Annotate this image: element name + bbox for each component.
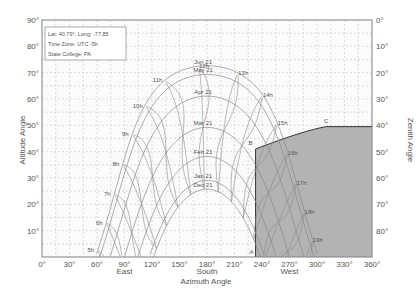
date-label: Jan 21	[194, 173, 213, 179]
date-label: Feb 21	[194, 149, 213, 155]
y2-tick-label: 50°	[376, 148, 388, 157]
x-tick-label: 60°	[91, 260, 103, 269]
y-tick-label: 70°	[27, 69, 39, 78]
direction-label: South	[197, 267, 218, 276]
y-tick-label: 30°	[27, 174, 39, 183]
y2-axis-title: Zenith Angle	[406, 118, 415, 163]
hour-label: 14h	[263, 92, 273, 98]
info-time-zone: Time Zone: UTC -5h	[48, 41, 98, 47]
info-lat-long: Lat: 40.79°, Long: -77.85	[48, 31, 109, 37]
hour-label: 18h	[305, 209, 315, 215]
direction-label: West	[280, 267, 299, 276]
x-axis-title: Azimuth Angle	[180, 277, 232, 286]
x-tick-label: 150°	[171, 260, 188, 269]
date-label: Mar 21	[194, 120, 213, 126]
date-label: Dec 21	[193, 182, 213, 188]
hour-label: 7h	[104, 191, 111, 197]
hour-label: 15h	[277, 120, 287, 126]
y2-tick-label: 80°	[376, 227, 388, 236]
hour-label: 11h	[153, 77, 163, 83]
y-tick-label: 80°	[27, 42, 39, 51]
hour-label: 5h	[88, 247, 95, 253]
y2-tick-label: 30°	[376, 95, 388, 104]
y2-tick-label: 60°	[376, 174, 388, 183]
y-axis-title: Altitude Angle	[18, 115, 27, 164]
y2-tick-label: 0°	[376, 16, 384, 25]
x-tick-label: 30°	[63, 260, 75, 269]
hour-label: 9h	[122, 131, 129, 137]
hour-label: 16h	[288, 150, 298, 156]
x-tick-label: 0°	[38, 260, 46, 269]
y2-axis-ticks: 0°10°20°30°40°50°60°70°80°	[376, 16, 388, 236]
info-location: State College, PA	[48, 51, 91, 57]
y-tick-label: 90°	[27, 16, 39, 25]
y-tick-label: 10°	[27, 227, 39, 236]
x-tick-label: 210°	[226, 260, 243, 269]
y2-tick-label: 20°	[376, 69, 388, 78]
hour-label: 19h	[313, 237, 323, 243]
y-tick-label: 60°	[27, 95, 39, 104]
obstruction-point-label: C	[324, 118, 329, 124]
y-axis-ticks: 10°20°30°40°50°60°70°80°90°	[27, 16, 39, 236]
x-tick-label: 120°	[144, 260, 161, 269]
y2-tick-label: 70°	[376, 200, 388, 209]
direction-label: East	[116, 267, 133, 276]
hour-label: 10h	[133, 103, 143, 109]
x-tick-label: 330°	[336, 260, 353, 269]
hour-label: 6h	[96, 220, 103, 226]
date-label: Apr 21	[194, 89, 212, 95]
y-tick-label: 40°	[27, 148, 39, 157]
y-tick-label: 20°	[27, 200, 39, 209]
x-tick-label: 300°	[309, 260, 326, 269]
y-tick-label: 50°	[27, 121, 39, 130]
y2-tick-label: 10°	[376, 42, 388, 51]
sun-path-chart: Jun 21May 21Apr 21Mar 21Feb 21Jan 21Dec …	[0, 0, 420, 298]
y2-tick-label: 40°	[376, 121, 388, 130]
obstruction-point-label: B	[249, 140, 253, 146]
x-tick-label: 240°	[254, 260, 271, 269]
info-box: Lat: 40.79°, Long: -77.85 Time Zone: UTC…	[45, 27, 126, 60]
x-tick-label: 360°	[364, 260, 381, 269]
hour-label: 13h	[238, 70, 248, 76]
hour-label: 8h	[112, 161, 119, 167]
hour-label: 12h	[199, 63, 209, 69]
hour-label: 17h	[297, 180, 307, 186]
obstruction-point-label: A	[250, 249, 254, 255]
